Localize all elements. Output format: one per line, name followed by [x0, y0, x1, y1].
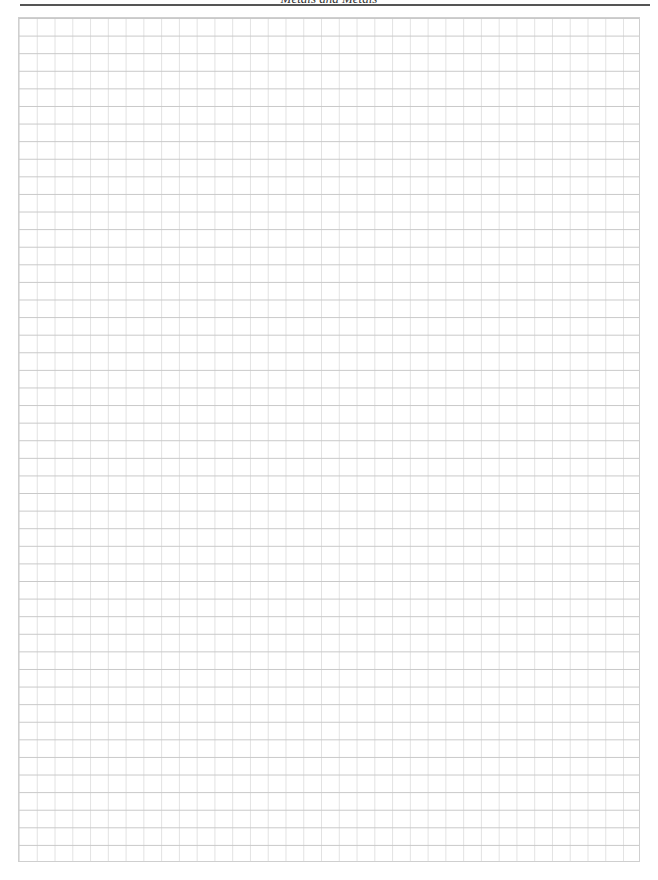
header-rule: [20, 4, 650, 6]
graph-paper-grid: [18, 17, 640, 862]
